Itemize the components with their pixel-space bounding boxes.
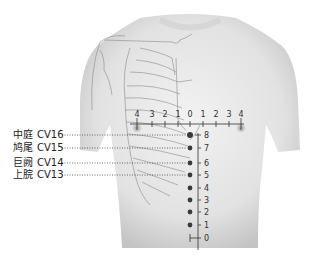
v-tick-label: 5 <box>204 171 209 180</box>
point-code: CV13 <box>37 169 64 180</box>
v-tick-label: 2 <box>204 208 209 217</box>
v-tick-label: 1 <box>204 221 209 230</box>
h-tick-label: 4 <box>134 110 139 119</box>
h-tick-label: 0 <box>187 110 192 119</box>
point-name-zh: 中庭 <box>13 129 37 141</box>
point-name-zh: 上脘 <box>13 169 37 181</box>
point-name-zh: 巨阙 <box>13 157 37 169</box>
point-label-cv13: 上脘CV13 <box>13 169 64 181</box>
v-tick-label: 4 <box>204 184 209 193</box>
v-tick-label: 0 <box>204 234 209 243</box>
v-tick-label: 7 <box>204 144 209 153</box>
acupoint-diagram: 中庭CV16 鸠尾CV15 巨阙CV14 上脘CV13 4 3 2 1 0 1 … <box>0 0 313 258</box>
v-tick-label: 3 <box>204 196 209 205</box>
point-code: CV16 <box>37 129 64 140</box>
point-cv16 <box>187 132 193 138</box>
h-tick-label: 1 <box>200 110 205 119</box>
h-tick-label: 2 <box>162 110 167 119</box>
v-tick-label: 6 <box>204 159 209 168</box>
point-label-cv14: 巨阙CV14 <box>13 157 64 169</box>
h-tick-label: 3 <box>226 110 231 119</box>
point-name-zh: 鸠尾 <box>13 142 37 154</box>
point-code: CV14 <box>37 157 64 168</box>
h-tick-label: 1 <box>175 110 180 119</box>
point-code: CV15 <box>37 142 64 153</box>
h-tick-label: 3 <box>149 110 154 119</box>
h-tick-label: 2 <box>213 110 218 119</box>
v-tick-label: 8 <box>204 131 209 140</box>
point-label-cv16: 中庭CV16 <box>13 129 64 141</box>
point-label-cv15: 鸠尾CV15 <box>13 142 64 154</box>
h-tick-label: 4 <box>238 110 243 119</box>
